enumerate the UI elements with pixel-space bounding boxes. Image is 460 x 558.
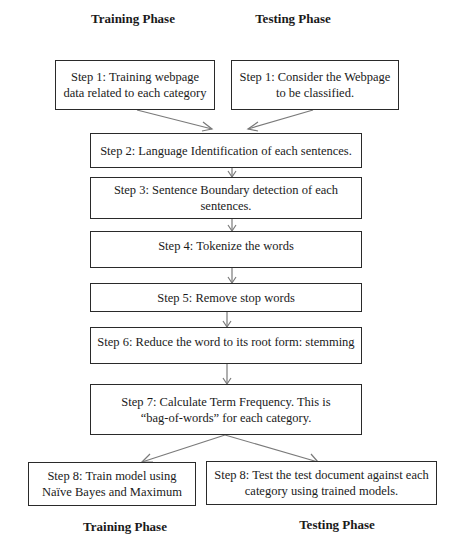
step5-line1: Step 5: Remove stop words [157, 290, 295, 306]
step3-line2: sentences. [114, 198, 338, 214]
step8-testing-line1: Step 8: Test the test document against e… [214, 467, 428, 483]
step4-box: Step 4: Tokenize the words [90, 231, 362, 268]
phase-label-training-bottom: Training Phase [83, 519, 167, 535]
step1-testing-line2: to be classified. [240, 85, 391, 101]
step8-testing-box: Step 8: Test the test document against e… [206, 461, 437, 505]
phase-label-testing-top: Testing Phase [255, 11, 331, 27]
arrow-step1-testing-to-step2 [248, 110, 313, 129]
step1-testing-box: Step 1: Consider the Webpage to be class… [231, 60, 399, 110]
step6-line1: Step 6: Reduce the word to its root form… [97, 334, 354, 350]
step1-testing-line1: Step 1: Consider the Webpage [240, 69, 391, 85]
step2-box: Step 2: Language Identification of each … [90, 133, 362, 168]
step7-line2: “bag-of-words” for each category. [121, 410, 330, 426]
step6-box: Step 6: Reduce the word to its root form… [90, 327, 362, 364]
arrowhead-icon [142, 454, 153, 462]
phase-label-training-top: Training Phase [91, 11, 175, 27]
step7-box: Step 7: Calculate Term Frequency. This i… [90, 384, 362, 435]
step2-line1: Step 2: Language Identification of each … [100, 143, 352, 159]
step3-line1: Step 3: Sentence Boundary detection of e… [114, 182, 338, 198]
step7-line1: Step 7: Calculate Term Frequency. This i… [121, 394, 330, 410]
arrow-step7-to-step8-testing [225, 435, 318, 462]
step3-box: Step 3: Sentence Boundary detection of e… [90, 177, 362, 219]
arrowhead-icon [248, 122, 258, 131]
step4-line1: Step 4: Tokenize the words [158, 238, 294, 254]
arrow-step7-to-step8-training [142, 435, 225, 462]
arrow-step1-training-to-step2 [137, 110, 212, 129]
arrowhead-icon [202, 122, 212, 131]
step1-training-box: Step 1: Training webpage data related to… [55, 60, 215, 110]
step8-training-box: Step 8: Train model using Naïve Bayes an… [28, 462, 196, 506]
phase-label-testing-bottom: Testing Phase [299, 517, 375, 533]
step1-training-line2: data related to each category [64, 85, 207, 101]
step1-training-line1: Step 1: Training webpage [64, 69, 207, 85]
step8-testing-line2: category using trained models. [214, 483, 428, 499]
step5-box: Step 5: Remove stop words [90, 283, 362, 312]
step8-training-line1: Step 8: Train model using [42, 468, 182, 484]
step8-training-line2: Naïve Bayes and Maximum [42, 484, 182, 500]
